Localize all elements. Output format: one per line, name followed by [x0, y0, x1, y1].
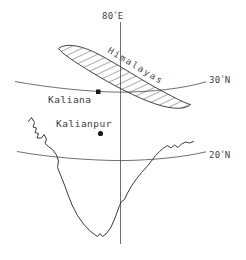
parallel-20n-line [17, 152, 206, 161]
kalianpur-label: Kalianpur [56, 118, 112, 129]
himalayas-range [50, 38, 200, 118]
kalianpur-station-marker [98, 131, 103, 136]
kaliana-station-marker [96, 90, 101, 95]
meridian-80e-label: 80°E [102, 10, 123, 22]
parallel-30n-label: 30°N [209, 74, 230, 86]
parallel-20n-label: 20°N [209, 149, 230, 161]
kaliana-label: Kaliana [48, 94, 92, 105]
map-canvas: 80°E 30°N 20°N Himalayas Kaliana Kalianp… [0, 0, 246, 260]
india-coastline [29, 118, 194, 237]
himalayas-hatch-fill [50, 38, 200, 118]
map-figure: 80°E 30°N 20°N Himalayas Kaliana Kalianp… [0, 0, 246, 260]
